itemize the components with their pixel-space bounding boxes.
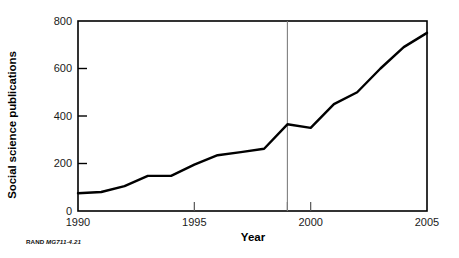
x-tick-label: 1990 [55,217,101,228]
x-tick-label: 2005 [404,217,450,228]
y-tick-label: 200 [38,158,72,169]
x-tick-label: 1995 [171,217,217,228]
figure-container: Social science publications 020040060080… [0,0,459,258]
figure-credit: RAND MG711-4.21 [26,238,81,245]
credit-code-label: MG711-4.21 [46,238,81,245]
x-axis-tick-marks [194,202,310,211]
y-tick-label: 600 [38,63,72,74]
y-tick-label: 800 [38,16,72,27]
x-axis-title: Year [78,231,428,243]
y-axis-title: Social science publications [1,18,23,233]
y-tick-label: 0 [38,206,72,217]
data-line-social-science-publications [78,33,427,193]
credit-rand-label: RAND [26,238,44,245]
x-tick-label: 2000 [288,217,334,228]
y-axis-tick-marks [78,69,87,164]
data-series-group [78,33,427,193]
y-tick-label: 400 [38,111,72,122]
